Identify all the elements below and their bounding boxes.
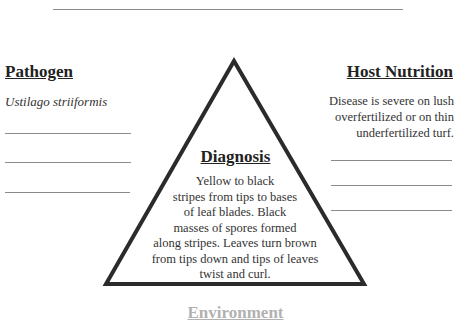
host-nutrition-heading: Host Nutrition [347, 62, 453, 82]
diagnosis-line: twist and curl. [0, 267, 459, 283]
diagnosis-line: along stripes. Leaves turn brown [0, 236, 459, 252]
diagnosis-heading: Diagnosis [0, 147, 459, 167]
diagnosis-line: stripes from tips to bases [0, 190, 459, 206]
pathogen-blank-line-1[interactable] [5, 133, 131, 134]
host-nutrition-line: underfertilized turf. [294, 125, 454, 141]
pathogen-heading: Pathogen [5, 62, 73, 82]
diagnosis-line: of leaf blades. Black [0, 205, 459, 221]
diagnosis-line: from tips down and tips of leaves [0, 252, 459, 268]
diagnosis-text: Yellow to black stripes from tips to bas… [0, 174, 459, 283]
host-nutrition-line: Disease is severe on lush [294, 93, 454, 109]
host-nutrition-line: overfertilized or on thin [294, 109, 454, 125]
diagnosis-line: masses of spores formed [0, 221, 459, 237]
environment-heading: Environment [0, 303, 459, 323]
diagnosis-line: Yellow to black [0, 174, 459, 190]
pathogen-value: Ustilago striiformis [5, 94, 107, 110]
host-nutrition-text: Disease is severe on lush overfertilized… [294, 93, 454, 141]
